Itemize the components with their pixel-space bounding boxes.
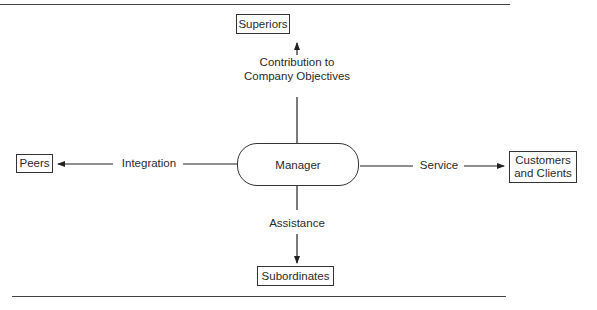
edge-assistance-label: Assistance: [262, 217, 332, 230]
edge-contribution-line1: Contribution to: [212, 56, 382, 69]
node-subordinates: Subordinates: [257, 266, 334, 286]
edge-contribution-line2: Company Objectives: [212, 70, 382, 83]
node-customers-label-line2: and Clients: [514, 167, 572, 180]
edge-service-label: Service: [416, 159, 462, 172]
edge-integration-label: Integration: [118, 157, 180, 170]
node-peers-label: Peers: [19, 157, 49, 170]
node-subordinates-label: Subordinates: [262, 270, 330, 283]
center-manager-label: Manager: [275, 159, 320, 171]
node-customers-label-line1: Customers: [515, 154, 571, 167]
node-superiors-label: Superiors: [238, 18, 287, 31]
edge-contribution-label: Contribution to Company Objectives: [212, 56, 382, 83]
center-manager: Manager: [237, 143, 359, 186]
node-peers: Peers: [16, 154, 53, 173]
node-customers-clients: Customers and Clients: [509, 151, 577, 183]
node-superiors: Superiors: [236, 14, 290, 34]
